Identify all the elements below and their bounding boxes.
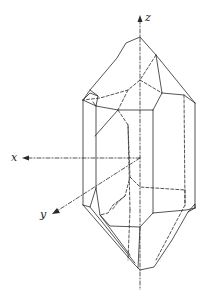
prism — [83, 100, 195, 213]
crystal-diagram: z x y — [0, 0, 209, 290]
y-axis-arrowhead — [52, 208, 60, 214]
x-axis-arrowhead — [22, 156, 29, 161]
upper-termination — [83, 37, 195, 136]
lower-termination — [83, 188, 195, 270]
crystal-drawing — [0, 0, 209, 290]
z-axis-label: z — [145, 12, 151, 23]
hidden-edges — [83, 55, 185, 260]
y-axis-label: y — [40, 209, 46, 220]
x-axis-label: x — [11, 152, 17, 163]
z-axis-arrowhead — [138, 15, 143, 22]
